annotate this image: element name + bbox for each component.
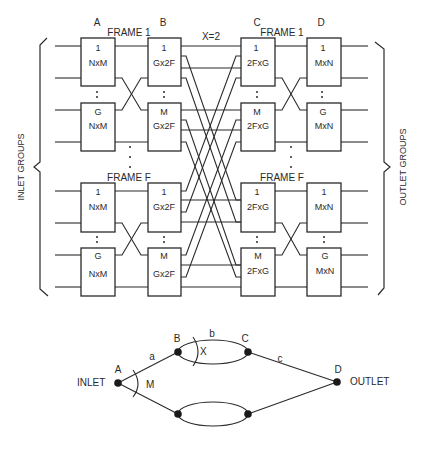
switch-type: MxN [315,58,334,68]
inlet-label: INLET [77,377,105,388]
path-graph: A B C D a b c M X INLET OUTLET [77,328,389,426]
switch-index: M [254,251,262,261]
switch-index: 1 [161,43,166,53]
switch-type: NxM [89,58,108,68]
ellipsis-dots [96,91,325,243]
inlet-groups-label: INLET GROUPS [16,134,26,201]
switch-type: Gx2F [153,58,176,68]
frame-1-label-left: FRAME 1 [107,27,151,38]
switch-type: 2FxG [247,58,269,68]
angle-label-x: X [200,346,207,357]
node-label-a: A [115,364,122,375]
frame-1-label-right: FRAME 1 [260,27,304,38]
node-c-lower [244,410,252,418]
frame-f-label-left: FRAME F [107,172,151,183]
link-ellipse-upper [178,340,248,364]
column-label-d: D [317,17,324,28]
switch-type: MxN [315,202,334,212]
switch-type: NxM [89,269,108,279]
switch-index: 1 [95,43,100,53]
node-label-b: B [174,333,181,344]
node-b [174,348,182,356]
switch-index: M [160,251,168,261]
switch-type: NxM [89,121,108,131]
ab-links [115,46,148,287]
column-label-a: A [94,17,101,28]
switch-index: G [321,251,328,261]
switch-index: G [94,251,101,261]
switch-type: 2FxG [247,121,269,131]
switching-network-diagram: A B C D FRAME 1 FRAME 1 FRAME F FRAME F … [0,0,425,449]
frame-f-label-right: FRAME F [260,172,304,183]
switch-index: 1 [95,187,100,197]
crossover-label: X=2 [202,31,221,42]
switch-index: M [253,107,261,117]
switch-index: 1 [253,43,258,53]
outlet-label: OUTLET [350,376,389,387]
node-c [244,348,252,356]
column-label-b: B [160,17,167,28]
switch-type: 2FxG [247,202,269,212]
edge-label-c: c [278,353,283,364]
node-label-d: D [334,364,341,375]
outlet-groups-label: OUTLET GROUPS [398,129,408,206]
switch-index: G [319,107,326,117]
switch-index: 1 [321,187,326,197]
node-label-c: C [241,333,248,344]
switch-type: NxM [89,202,108,212]
outlet-lines [341,46,368,287]
switch-type: Gx2F [153,121,176,131]
switch-type: MxN [316,266,335,276]
switch-type: Gx2F [153,269,176,279]
node-a [114,379,122,387]
switch-index: G [94,107,101,117]
outlet-groups-brace [375,42,390,295]
angle-label-m: M [146,379,154,390]
switch-type: MxN [315,121,334,131]
bc-interconnect [181,46,241,287]
link-ellipse-lower [178,402,248,426]
frame-1-switches: 1 NxM G NxM 1 Gx2F M Gx2F 1 2FxG M 2FxG … [81,38,341,151]
switch-index: 1 [161,187,166,197]
switch-index: 1 [320,43,325,53]
node-b-lower [174,410,182,418]
switch-type: Gx2F [153,202,176,212]
edge-label-a: a [149,351,155,362]
switch-index: M [160,107,168,117]
inlet-groups-brace [34,38,48,296]
switch-type: 2FxG [247,266,269,276]
inlet-lines [55,46,81,287]
switch-index: 1 [254,187,259,197]
node-d [333,378,341,386]
edge-label-b: b [209,328,215,339]
